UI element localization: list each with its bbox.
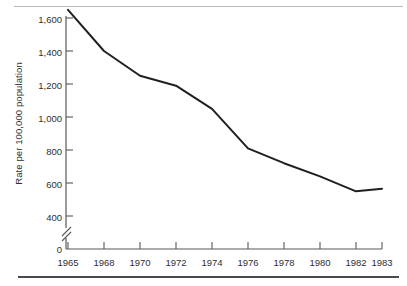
- y-axis-ticks: [66, 18, 73, 216]
- line-chart-figure: Rate per 100,000 population 1,600 1,400 …: [0, 0, 407, 286]
- data-series-line: [68, 10, 382, 192]
- chart-plot-area: [0, 0, 407, 286]
- x-axis-ticks: [68, 242, 382, 249]
